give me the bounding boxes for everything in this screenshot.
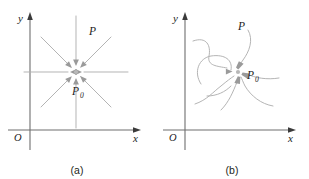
y-axis-b — [182, 12, 188, 150]
y-axis-a — [27, 12, 33, 150]
x-axis-b — [163, 127, 296, 133]
origin-label-b: O — [169, 132, 177, 143]
equilibrium-point-a — [74, 70, 78, 74]
caption-a: (a) — [0, 164, 154, 176]
equilibrium-subscript-a: 0 — [80, 91, 84, 100]
equilibrium-point-b — [236, 70, 240, 74]
panel-b-diagram: y x O P P 0 — [155, 0, 309, 179]
trajectory-label-b: P — [237, 20, 245, 32]
y-axis-label-a: y — [17, 12, 23, 24]
figure-container: y x O P P 0 (a) — [0, 0, 309, 179]
y-axis-label-b: y — [172, 12, 178, 24]
panel-b: y x O P P 0 (b) — [155, 0, 309, 179]
trajectory-label-a: P — [88, 25, 96, 37]
equilibrium-label-b: P — [246, 69, 254, 81]
x-axis-a — [8, 127, 141, 133]
panel-a-diagram: y x O P P 0 — [0, 0, 154, 179]
x-axis-label-a: x — [132, 132, 138, 144]
equilibrium-label-a: P — [71, 85, 79, 97]
x-axis-label-b: x — [287, 132, 293, 144]
caption-b: (b) — [155, 164, 309, 176]
origin-label-a: O — [14, 132, 22, 143]
equilibrium-subscript-b: 0 — [255, 75, 259, 84]
panel-a: y x O P P 0 (a) — [0, 0, 154, 179]
trajectories-b — [193, 30, 279, 110]
